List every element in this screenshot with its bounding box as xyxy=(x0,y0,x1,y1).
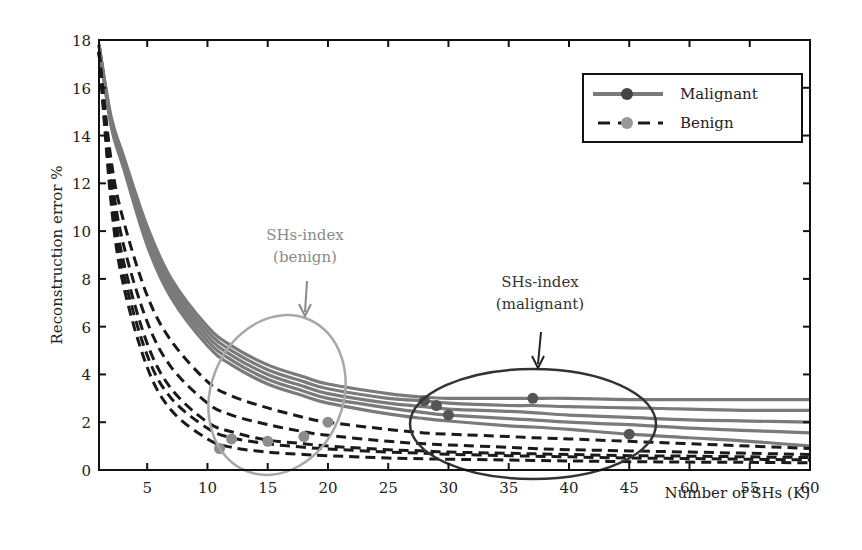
legend-marker-dot xyxy=(621,88,633,100)
x-tick-label: 45 xyxy=(620,479,639,497)
y-tick-label: 18 xyxy=(72,32,91,50)
malignant-shs-index-marker xyxy=(527,393,538,404)
ellipse-group xyxy=(185,294,656,496)
x-tick-label: 20 xyxy=(318,479,337,497)
y-tick-label: 6 xyxy=(81,319,91,337)
benign-shs-index-marker xyxy=(298,431,309,442)
annotation-malignant-subtitle: (malignant) xyxy=(496,295,584,313)
annotation-malignant: SHs-index (malignant) xyxy=(496,273,584,368)
x-tick-label: 40 xyxy=(559,479,578,497)
x-tick-label: 10 xyxy=(198,479,217,497)
legend-label-malignant: Malignant xyxy=(680,85,758,103)
y-tick-label: 8 xyxy=(81,271,91,289)
annotation-benign: SHs-index (benign) xyxy=(266,226,344,316)
annotation-malignant-title: SHs-index xyxy=(501,273,579,291)
malignant-shs-index-marker xyxy=(431,400,442,411)
y-axis-label: Reconstruction error % xyxy=(48,166,66,345)
x-tick-label: 5 xyxy=(142,479,152,497)
malignant-shs-index-marker xyxy=(624,429,635,440)
benign-shs-index-marker xyxy=(226,433,237,444)
y-tick-label: 4 xyxy=(81,366,91,384)
annotation-benign-title: SHs-index xyxy=(266,226,344,244)
legend-label-benign: Benign xyxy=(680,114,734,132)
arrow-down-icon xyxy=(299,281,311,316)
legend: Malignant Benign xyxy=(583,74,802,142)
y-tick-label: 10 xyxy=(72,223,91,241)
y-tick-label: 2 xyxy=(81,414,91,432)
y-tick-label: 0 xyxy=(81,462,91,480)
line-chart: 51015202530354045605560 024681012141618 … xyxy=(0,0,862,550)
benign-shs-index-marker xyxy=(322,417,333,428)
x-tick-label: 25 xyxy=(379,479,398,497)
y-tick-label: 14 xyxy=(72,128,91,146)
x-tick-label: 30 xyxy=(439,479,458,497)
y-tick-label: 12 xyxy=(72,175,91,193)
y-tick-label: 16 xyxy=(72,80,91,98)
chart-figure: 51015202530354045605560 024681012141618 … xyxy=(0,0,862,550)
malignant-shs-index-marker xyxy=(443,410,454,421)
x-tick-label: 35 xyxy=(499,479,518,497)
x-axis-label: Number of SHs (K) xyxy=(664,484,810,502)
legend-marker-dot xyxy=(621,117,633,129)
annotation-benign-subtitle: (benign) xyxy=(273,248,337,266)
arrow-down-icon xyxy=(532,332,544,368)
benign-shs-index-marker xyxy=(262,436,273,447)
x-tick-label: 15 xyxy=(258,479,277,497)
